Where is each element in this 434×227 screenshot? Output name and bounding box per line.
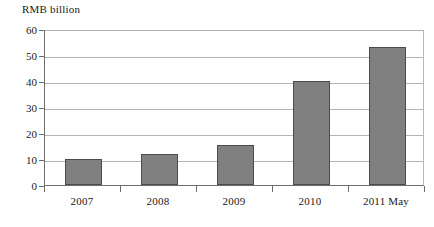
y-axis-tick-mark xyxy=(39,82,44,83)
x-axis-category-label: 2010 xyxy=(299,195,322,207)
bar xyxy=(217,145,254,185)
bar xyxy=(293,81,330,185)
y-axis-tick-label: 40 xyxy=(14,76,38,88)
x-axis-category-label: 2009 xyxy=(223,195,246,207)
x-axis-tick-mark xyxy=(348,186,349,192)
y-axis-tick-mark xyxy=(39,108,44,109)
plot-area xyxy=(44,30,424,186)
y-axis-tick-label: 60 xyxy=(14,24,38,36)
x-axis-tick-mark xyxy=(272,186,273,192)
x-axis-tick-mark xyxy=(44,186,45,192)
y-axis-tick-label: 30 xyxy=(14,102,38,114)
y-axis-tick-label: 20 xyxy=(14,128,38,140)
x-axis-category-label: 2007 xyxy=(71,195,94,207)
gridline xyxy=(45,57,423,58)
gridline xyxy=(45,109,423,110)
x-axis-tick-mark xyxy=(120,186,121,192)
x-axis-category-label: 2008 xyxy=(147,195,170,207)
y-axis-tick-mark xyxy=(39,56,44,57)
y-axis-unit-label: RMB billion xyxy=(22,3,80,15)
bar xyxy=(369,47,406,185)
gridline xyxy=(45,83,423,84)
x-axis-tick-mark xyxy=(424,186,425,192)
y-axis-tick-mark xyxy=(39,160,44,161)
gridline xyxy=(45,135,423,136)
bar xyxy=(65,159,102,185)
x-axis-category-label: 2011 May xyxy=(363,195,409,207)
x-axis-tick-mark xyxy=(196,186,197,192)
bar-chart-figure: RMB billion 0102030405060 20072008200920… xyxy=(0,0,434,227)
bar xyxy=(141,154,178,185)
y-axis-tick-labels: 0102030405060 xyxy=(14,30,38,186)
y-axis-tick-mark xyxy=(39,30,44,31)
y-axis-tick-label: 0 xyxy=(14,180,38,192)
y-axis-tick-label: 10 xyxy=(14,154,38,166)
y-axis-tick-mark xyxy=(39,134,44,135)
y-axis-tick-label: 50 xyxy=(14,50,38,62)
